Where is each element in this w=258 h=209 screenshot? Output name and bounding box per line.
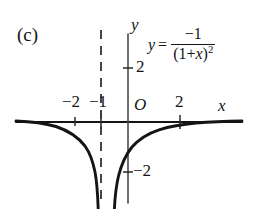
origin-label: O <box>134 96 146 113</box>
denominator-variable: x <box>196 45 203 62</box>
equation-lhs: y <box>148 36 155 54</box>
panel-label: (c) <box>17 25 38 44</box>
equation-equals-sign: = <box>158 36 167 54</box>
y-tick-label-neg2: −2 <box>133 162 151 179</box>
equation-fraction: −1 (1+x)2 <box>171 26 215 63</box>
y-axis-label: y <box>131 16 139 33</box>
y-tick-label-2: 2 <box>136 58 145 75</box>
x-tick-label-neg2: −2 <box>62 93 80 110</box>
x-axis-label: x <box>218 97 226 114</box>
equation-annotation: y = −1 (1+x)2 <box>148 26 215 63</box>
denominator-exponent: 2 <box>208 43 213 55</box>
curve-left-branch <box>16 121 98 209</box>
denominator-open-paren: (1+ <box>173 45 195 62</box>
x-tick-label-2: 2 <box>175 93 184 110</box>
x-tick-label-neg1: −1 <box>89 93 107 110</box>
fraction-numerator: −1 <box>182 26 205 44</box>
fraction-denominator: (1+x)2 <box>171 45 215 63</box>
figure-panel: (c) y x O −2 −1 2 2 −2 y = −1 (1+x)2 <box>0 0 258 209</box>
